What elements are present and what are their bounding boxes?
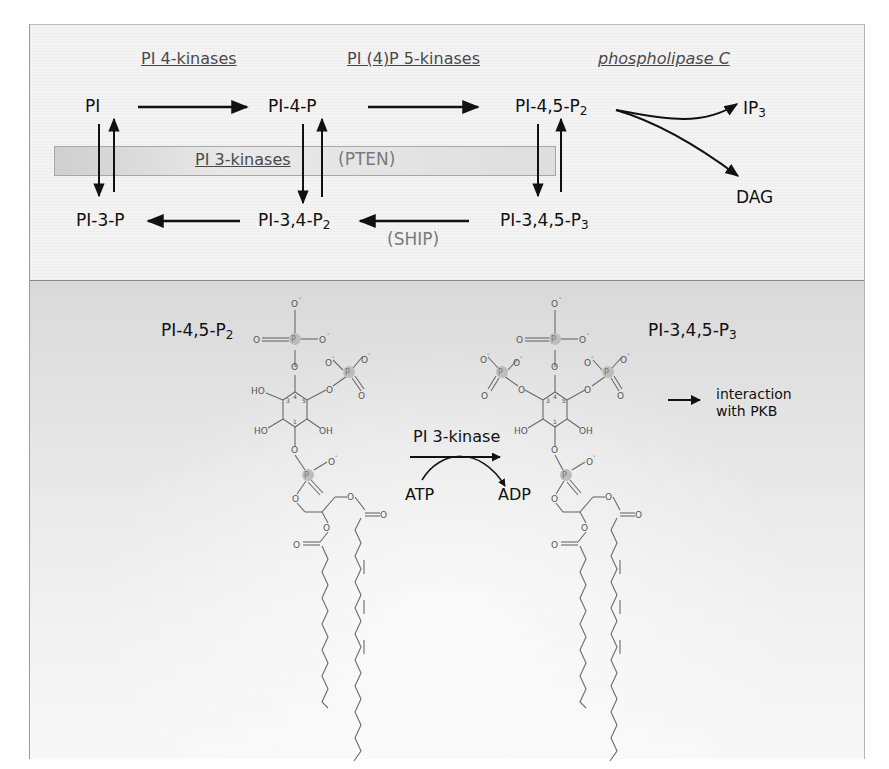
svg-text:O: O <box>551 445 558 455</box>
svg-text:5: 5 <box>302 397 306 404</box>
svg-text:3: 3 <box>286 397 290 404</box>
svg-text:O: O <box>581 523 588 533</box>
svg-text:O: O <box>551 540 558 550</box>
svg-text:-: - <box>520 353 523 361</box>
svg-text:OH: OH <box>579 426 593 436</box>
svg-text:O: O <box>358 391 365 401</box>
svg-text:O: O <box>253 335 260 345</box>
svg-text:O: O <box>319 335 326 345</box>
svg-text:P: P <box>604 368 609 377</box>
svg-text:O: O <box>481 391 488 401</box>
svg-text:O: O <box>323 523 330 533</box>
svg-text:OH: OH <box>319 426 333 436</box>
svg-text:-: - <box>587 330 590 338</box>
svg-text:P: P <box>291 335 296 344</box>
svg-text:-: - <box>487 350 490 358</box>
svg-text:O: O <box>380 510 387 520</box>
svg-text:P: P <box>562 471 567 480</box>
svg-text:-: - <box>627 350 630 358</box>
svg-text:P: P <box>345 368 350 377</box>
svg-text:-: - <box>335 452 338 460</box>
vertical-arrows-pi45p2 <box>538 119 561 196</box>
arrow-plc-to-dag <box>616 110 738 176</box>
svg-text:O: O <box>293 540 300 550</box>
svg-text:-: - <box>299 294 302 302</box>
svg-text:O: O <box>326 385 333 395</box>
svg-text:HO: HO <box>251 386 265 396</box>
svg-text:O: O <box>635 510 642 520</box>
svg-text:O: O <box>551 362 558 372</box>
svg-text:1: 1 <box>553 418 557 425</box>
svg-text:O: O <box>605 492 612 502</box>
svg-text:-: - <box>327 330 330 338</box>
svg-text:O: O <box>291 445 298 455</box>
svg-text:5: 5 <box>562 397 566 404</box>
svg-text:O: O <box>584 385 591 395</box>
svg-text:4: 4 <box>293 393 297 400</box>
svg-text:-: - <box>368 350 371 358</box>
svg-text:O: O <box>291 362 298 372</box>
svg-text:HO: HO <box>254 426 268 436</box>
svg-text:O: O <box>292 494 299 504</box>
svg-text:1: 1 <box>293 418 297 425</box>
vertical-arrows-pi <box>99 119 114 196</box>
svg-text:O: O <box>518 385 525 395</box>
svg-text:O: O <box>579 335 586 345</box>
svg-text:O: O <box>551 299 558 309</box>
svg-text:-: - <box>559 294 562 302</box>
svg-text:-: - <box>593 452 596 460</box>
atom-labels-right: O- O O- O O- O- O O O- O- O O HO OH O O-… <box>480 294 642 550</box>
svg-text:P: P <box>498 368 503 377</box>
svg-text:O: O <box>347 492 354 502</box>
svg-text:P: P <box>551 335 556 344</box>
diagram-graphics: O- O O- O O- O- O O HO HO OH O O- O O O … <box>0 0 889 769</box>
arrow-atp-to-adp <box>422 456 505 486</box>
svg-text:HO: HO <box>514 426 528 436</box>
svg-text:P: P <box>304 471 309 480</box>
molecule-pi45p2 <box>262 310 380 761</box>
vertical-arrows-pi4p <box>303 119 322 203</box>
svg-text:O: O <box>551 494 558 504</box>
svg-text:O: O <box>291 299 298 309</box>
svg-text:3: 3 <box>546 397 550 404</box>
svg-text:4: 4 <box>553 393 557 400</box>
molecule-pip3 <box>488 310 635 761</box>
svg-text:-: - <box>332 353 335 361</box>
svg-text:O: O <box>516 335 523 345</box>
svg-text:O: O <box>617 391 624 401</box>
